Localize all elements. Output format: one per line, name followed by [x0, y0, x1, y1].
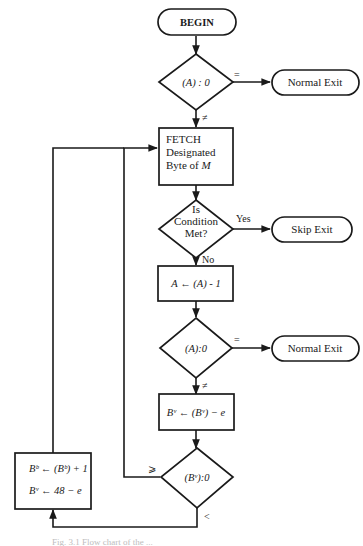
decision-condition-met: Is Condition Met? Yes No	[159, 200, 251, 265]
skip-exit-label: Skip Exit	[291, 223, 332, 235]
update-bb-line1: Bᵇ ← (Bᵇ) + 1	[29, 463, 88, 475]
equal-label-2: =	[234, 334, 240, 345]
flowchart-canvas: BEGIN (A) : 0 = ≠ Normal Exit FETCH Desi…	[0, 0, 363, 546]
not-equal-label-2: ≠	[202, 380, 208, 391]
arrow-update-bb-to-fetch	[53, 148, 124, 453]
lt-label: <	[204, 511, 210, 522]
ge-label: ⩾	[148, 463, 156, 474]
normal-exit-1-label: Normal Exit	[288, 76, 343, 88]
decision-a-zero-2-label: (A):0	[185, 343, 208, 355]
decision-bv-zero-label: (Bᵛ):0	[184, 472, 210, 484]
normal-exit-2-label: Normal Exit	[288, 342, 343, 354]
fetch-process: FETCH Designated Byte of M	[159, 128, 233, 185]
decrement-a-process: A ← (A) - 1	[158, 266, 233, 301]
decision-a-zero-1-label: (A) : 0	[182, 77, 210, 89]
condition-line2: Condition	[174, 215, 219, 227]
update-bv-label: Bᵛ ← (Bᵛ) − e	[167, 407, 226, 419]
begin-terminal: BEGIN	[158, 9, 236, 35]
begin-label: BEGIN	[180, 17, 214, 28]
arrow-ge-loop-to-fetch	[124, 148, 160, 477]
condition-line3: Met?	[185, 227, 208, 239]
equal-label-1: =	[234, 69, 240, 80]
update-bb-process: Bᵇ ← (Bᵇ) + 1 Bᵛ ← 48 − e	[15, 453, 91, 509]
normal-exit-terminal-1: Normal Exit	[272, 70, 359, 95]
arrow-lt-to-update-bb	[53, 508, 197, 527]
no-label: No	[202, 254, 214, 265]
fetch-line2: Designated	[166, 146, 216, 158]
figure-caption: Fig. 3.1 Flow chart of the ...	[52, 537, 153, 546]
decision-a-zero-1: (A) : 0 = ≠	[159, 54, 240, 123]
condition-line1: Is	[192, 203, 200, 215]
yes-label: Yes	[236, 213, 251, 224]
update-bv-process: Bᵛ ← (Bᵛ) − e	[159, 394, 234, 430]
not-equal-label-1: ≠	[202, 112, 208, 123]
decrement-a-label: A ← (A) - 1	[170, 278, 220, 290]
update-bb-line2: Bᵛ ← 48 − e	[29, 485, 82, 496]
decision-bv-zero: (Bᵛ):0 ⩾ <	[148, 448, 233, 522]
decision-a-zero-2: (A):0 = ≠	[160, 318, 240, 391]
skip-exit-terminal: Skip Exit	[272, 217, 352, 242]
fetch-line1: FETCH	[166, 133, 201, 145]
fetch-line3: Byte of M	[166, 159, 211, 171]
normal-exit-terminal-2: Normal Exit	[272, 336, 359, 361]
